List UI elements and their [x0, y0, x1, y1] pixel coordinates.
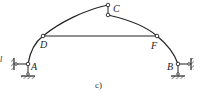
label-f: F — [150, 40, 158, 51]
edge-mark: l — [0, 55, 3, 64]
label-a: A — [30, 61, 38, 72]
figure-caption: c) — [95, 80, 102, 90]
label-c: C — [113, 3, 120, 14]
arch-left-member — [28, 5, 108, 64]
hinge-c-top — [106, 3, 110, 7]
hinge-c-bottom — [106, 13, 110, 17]
arch-diagram: A B C D F l c) — [0, 0, 205, 97]
support-b-icon — [171, 58, 194, 79]
label-b: B — [167, 61, 173, 72]
joint-d — [41, 34, 45, 38]
joint-f — [155, 34, 159, 38]
label-d: D — [39, 39, 48, 50]
arch-right-member — [108, 15, 178, 64]
